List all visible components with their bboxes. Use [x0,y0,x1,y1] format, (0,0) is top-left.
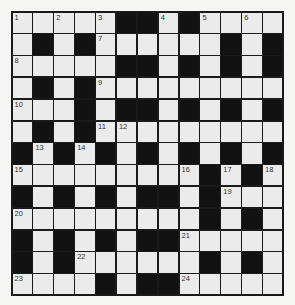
answer-cell[interactable] [159,209,178,229]
answer-cell[interactable] [159,143,178,163]
answer-cell[interactable] [180,34,199,54]
answer-cell[interactable] [200,143,219,163]
answer-cell[interactable] [242,231,261,251]
answer-cell[interactable] [75,209,94,229]
answer-cell[interactable]: 4 [159,13,178,33]
answer-cell[interactable]: 22 [75,252,94,272]
answer-cell[interactable]: 3 [96,13,115,33]
answer-cell[interactable] [54,209,73,229]
answer-cell[interactable] [117,252,136,272]
answer-cell[interactable] [242,143,261,163]
answer-cell[interactable] [159,165,178,185]
answer-cell[interactable] [54,100,73,120]
answer-cell[interactable] [200,34,219,54]
answer-cell[interactable] [75,274,94,294]
answer-cell[interactable] [54,78,73,98]
answer-cell[interactable] [242,100,261,120]
answer-cell[interactable]: 5 [200,13,219,33]
answer-cell[interactable] [54,274,73,294]
answer-cell[interactable] [263,187,282,207]
answer-cell[interactable] [75,231,94,251]
answer-cell[interactable] [54,56,73,76]
answer-cell[interactable] [75,165,94,185]
answer-cell[interactable] [180,187,199,207]
answer-cell[interactable]: 6 [242,13,261,33]
answer-cell[interactable] [159,56,178,76]
answer-cell[interactable] [117,34,136,54]
answer-cell[interactable] [159,100,178,120]
answer-cell[interactable] [96,209,115,229]
answer-cell[interactable] [200,78,219,98]
answer-cell[interactable] [180,209,199,229]
answer-cell[interactable] [200,274,219,294]
answer-cell[interactable] [33,56,52,76]
answer-cell[interactable] [221,209,240,229]
answer-cell[interactable] [263,274,282,294]
answer-cell[interactable] [242,122,261,142]
answer-cell[interactable] [96,252,115,272]
answer-cell[interactable] [96,100,115,120]
answer-cell[interactable]: 24 [180,274,199,294]
answer-cell[interactable] [263,252,282,272]
answer-cell[interactable]: 10 [13,100,32,120]
answer-cell[interactable] [180,252,199,272]
answer-cell[interactable] [117,187,136,207]
answer-cell[interactable] [138,165,157,185]
answer-cell[interactable] [200,56,219,76]
answer-cell[interactable] [242,187,261,207]
answer-cell[interactable] [221,274,240,294]
answer-cell[interactable] [75,13,94,33]
answer-cell[interactable] [242,56,261,76]
answer-cell[interactable] [33,13,52,33]
answer-cell[interactable] [13,78,32,98]
answer-cell[interactable]: 20 [13,209,32,229]
answer-cell[interactable] [159,78,178,98]
answer-cell[interactable] [221,122,240,142]
answer-cell[interactable] [263,122,282,142]
answer-cell[interactable] [138,34,157,54]
answer-cell[interactable]: 23 [13,274,32,294]
answer-cell[interactable]: 21 [180,231,199,251]
answer-cell[interactable]: 19 [221,187,240,207]
answer-cell[interactable] [54,34,73,54]
answer-cell[interactable] [117,78,136,98]
answer-cell[interactable] [242,78,261,98]
answer-cell[interactable]: 18 [263,165,282,185]
answer-cell[interactable] [200,122,219,142]
answer-cell[interactable] [263,231,282,251]
answer-cell[interactable]: 16 [180,165,199,185]
answer-cell[interactable]: 1 [13,13,32,33]
answer-cell[interactable] [96,56,115,76]
answer-cell[interactable]: 7 [96,34,115,54]
answer-cell[interactable] [138,252,157,272]
answer-cell[interactable] [33,100,52,120]
answer-cell[interactable] [221,13,240,33]
answer-cell[interactable] [96,165,115,185]
answer-cell[interactable] [221,78,240,98]
answer-cell[interactable] [263,209,282,229]
answer-cell[interactable] [221,252,240,272]
answer-cell[interactable] [117,231,136,251]
answer-cell[interactable] [242,274,261,294]
answer-cell[interactable] [33,187,52,207]
answer-cell[interactable] [54,165,73,185]
answer-cell[interactable] [54,122,73,142]
answer-cell[interactable] [75,56,94,76]
answer-cell[interactable]: 2 [54,13,73,33]
answer-cell[interactable] [33,274,52,294]
answer-cell[interactable]: 15 [13,165,32,185]
answer-cell[interactable] [138,209,157,229]
answer-cell[interactable] [75,187,94,207]
answer-cell[interactable] [263,13,282,33]
answer-cell[interactable] [117,274,136,294]
answer-cell[interactable]: 17 [221,165,240,185]
answer-cell[interactable] [117,165,136,185]
answer-cell[interactable]: 14 [75,143,94,163]
answer-cell[interactable] [200,100,219,120]
answer-cell[interactable] [33,231,52,251]
answer-cell[interactable] [242,34,261,54]
answer-cell[interactable] [180,78,199,98]
answer-cell[interactable] [117,143,136,163]
answer-cell[interactable] [138,78,157,98]
answer-cell[interactable] [200,231,219,251]
